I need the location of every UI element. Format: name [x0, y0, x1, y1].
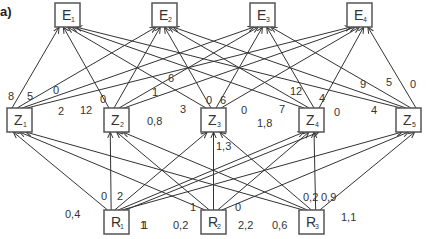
svg-text:1: 1 — [120, 223, 124, 230]
node-z5: Z5 — [396, 108, 421, 132]
edge-z4-e1 — [72, 27, 304, 108]
svg-text:3: 3 — [266, 16, 270, 23]
svg-text:4: 4 — [315, 121, 319, 128]
svg-text:E: E — [257, 7, 266, 23]
weight-label: 0 — [241, 104, 247, 116]
weight-label: 2,2 — [238, 219, 253, 231]
node-z2: Z2 — [104, 108, 129, 132]
svg-text:3: 3 — [217, 121, 221, 128]
weight-label: 0,8 — [147, 115, 162, 127]
weight-label: 0 — [206, 94, 212, 106]
node-e1: E1 — [55, 3, 80, 27]
edge-r1-z1 — [13, 132, 107, 210]
svg-text:3: 3 — [315, 223, 319, 230]
weight-label: 0,6 — [272, 219, 287, 231]
svg-text:Z: Z — [14, 112, 23, 128]
weight-label: 9 — [360, 78, 366, 90]
node-r1: R1 — [104, 210, 129, 234]
svg-text:5: 5 — [412, 121, 416, 128]
edge-r2-z1 — [20, 132, 206, 210]
weight-label: 0,9 — [321, 191, 336, 203]
weight-label: 12 — [80, 104, 92, 116]
network-diagram: 85021201630607124049500,402110,211,302,2… — [0, 0, 426, 239]
weight-label: 1 — [190, 201, 196, 213]
weight-label: 0 — [334, 106, 340, 118]
edge-z3-e1 — [68, 27, 207, 108]
weight-label: 5 — [27, 90, 33, 102]
node-e2: E2 — [152, 3, 177, 27]
svg-text:Z: Z — [208, 112, 217, 128]
weight-label: 7 — [279, 103, 285, 115]
weight-label: 2 — [117, 190, 123, 202]
svg-text:E: E — [354, 7, 363, 23]
node-z4: Z4 — [299, 108, 324, 132]
edge-r1-z3 — [115, 132, 208, 210]
weight-label: 0 — [53, 84, 59, 96]
weight-label: 0 — [101, 190, 107, 202]
weight-label: 0,2 — [303, 191, 318, 203]
weight-labels-layer: 85021201630607124049500,402110,211,302,2… — [8, 72, 416, 231]
weight-label: 6 — [220, 94, 226, 106]
weight-label: 1,8 — [257, 117, 272, 129]
weight-label: 5 — [386, 76, 392, 88]
svg-text:2: 2 — [217, 223, 221, 230]
edge-r3-z3 — [220, 132, 312, 210]
svg-text:E: E — [159, 7, 168, 23]
weight-label: 4 — [319, 92, 325, 104]
node-r2: R2 — [201, 210, 226, 234]
weight-label: 0 — [100, 93, 106, 105]
weight-label: 12 — [290, 85, 302, 97]
svg-text:Z: Z — [306, 112, 315, 128]
svg-text:4: 4 — [363, 16, 367, 23]
edge-z5-e4 — [368, 27, 416, 108]
svg-text:2: 2 — [120, 121, 124, 128]
node-e4: E4 — [347, 3, 372, 27]
node-r3: R3 — [299, 210, 324, 234]
weight-label: 1 — [152, 86, 158, 98]
node-z1: Z1 — [7, 108, 32, 132]
weight-label: 1,3 — [216, 140, 231, 152]
edge-r1-z4 — [118, 132, 304, 210]
node-e3: E3 — [250, 3, 275, 27]
weight-label: 0,4 — [65, 208, 80, 220]
weight-label: 0,2 — [173, 219, 188, 231]
weight-label: 1 — [140, 219, 146, 231]
edge-r1-z2 — [110, 132, 111, 210]
weight-label: 6 — [168, 72, 174, 84]
svg-text:Z: Z — [403, 112, 412, 128]
weight-label: 0 — [410, 78, 416, 90]
weight-label: 2 — [58, 105, 64, 117]
svg-text:2: 2 — [168, 16, 172, 23]
svg-text:E: E — [62, 7, 71, 23]
weight-label: 0 — [235, 201, 241, 213]
node-z3: Z3 — [201, 108, 226, 132]
svg-text:1: 1 — [71, 16, 75, 23]
weight-label: 8 — [8, 90, 14, 102]
svg-text:Z: Z — [111, 112, 120, 128]
weight-label: 1,1 — [341, 211, 356, 223]
weight-label: 4 — [371, 104, 377, 116]
weight-label: 3 — [180, 103, 186, 115]
svg-text:1: 1 — [23, 121, 27, 128]
